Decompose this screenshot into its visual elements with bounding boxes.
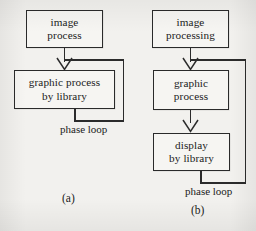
node-a-image-process: image process	[26, 10, 103, 48]
node-a-graphic-process-by-library-line-1: graphic process	[29, 76, 100, 89]
node-b-graphic-process-line-2: process	[174, 90, 208, 103]
figure-canvas: image process graphic process by library…	[0, 0, 256, 231]
edge-a-feedback-riser	[123, 59, 125, 121]
arrowhead-b-graphic-to-display	[182, 119, 199, 133]
node-b-display-by-library-line-1: display	[175, 139, 208, 152]
edge-a-feedback-top-run	[64, 59, 124, 61]
node-b-display-by-library: display by library	[153, 133, 230, 171]
node-a-image-process-line-1: image	[51, 16, 79, 29]
node-b-image-processing-line-1: image	[177, 16, 205, 29]
node-b-image-processing-line-2: processing	[166, 29, 215, 42]
edge-a-feedback-bottom-run	[74, 120, 124, 122]
figure-caption-b: (b)	[191, 204, 204, 216]
edge-b-feedback-riser	[245, 59, 247, 183]
loop-label-a-phase-loop: phase loop	[60, 123, 107, 135]
node-b-graphic-process: graphic process	[153, 70, 229, 110]
node-a-graphic-process-by-library: graphic process by library	[14, 70, 115, 109]
node-a-image-process-line-2: process	[47, 29, 81, 42]
edge-b-feedback-bottom-run	[200, 182, 246, 184]
loop-label-b-phase-loop: phase loop	[185, 185, 232, 197]
edge-b-feedback-top-run	[190, 59, 246, 61]
node-a-graphic-process-by-library-line-2: by library	[42, 90, 87, 103]
node-b-graphic-process-line-1: graphic	[174, 77, 208, 90]
figure-caption-a: (a)	[62, 192, 75, 204]
node-b-display-by-library-line-2: by library	[169, 152, 214, 165]
node-b-image-processing: image processing	[152, 10, 229, 48]
